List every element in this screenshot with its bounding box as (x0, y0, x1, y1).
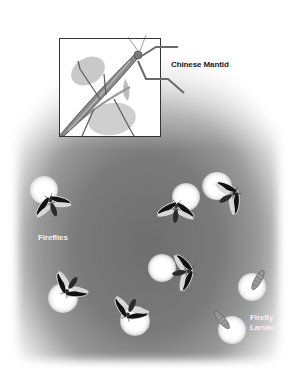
firefly-larvae-label-line1: Firefly (250, 313, 273, 322)
firefly-larvae-label-line2: Larvae (250, 323, 275, 332)
fireflies-label: Fireflies (38, 233, 68, 242)
firefly-icon (169, 251, 199, 294)
firefly-larva-icon (249, 269, 266, 292)
firefly-icon (155, 198, 196, 224)
firefly-icon (30, 188, 75, 223)
firefly-icon (48, 266, 94, 307)
firefly-icon (210, 173, 250, 219)
firefly-icon (107, 291, 152, 329)
fireflies-layer (0, 0, 292, 379)
illustration-scene: Chinese Mantid (0, 0, 292, 379)
firefly-larva-icon (212, 309, 232, 330)
